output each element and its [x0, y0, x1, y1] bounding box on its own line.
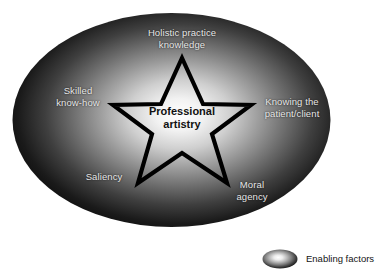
node-label-knowing-the-patient-client: Knowing the patient/client — [243, 96, 341, 119]
node-label-saliency: Saliency — [68, 171, 140, 183]
center-label-professional-artistry: Professional artistry — [134, 105, 230, 131]
legend-label: Enabling factors — [306, 253, 374, 265]
legend: Enabling factors — [262, 246, 380, 272]
node-label-holistic-practice-knowledge: Holistic practice knowledge — [126, 27, 238, 50]
ellipse-swatch-icon — [262, 249, 298, 269]
node-label-moral-agency: Moral agency — [219, 179, 285, 202]
node-label-skilled-know-how: Skilled know-how — [42, 85, 114, 108]
